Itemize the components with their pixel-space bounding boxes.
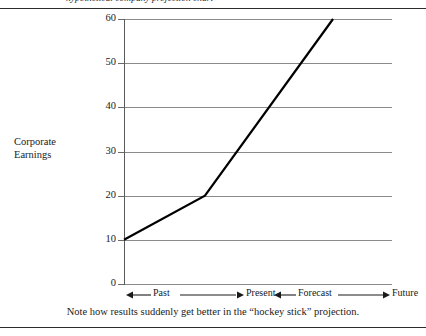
y-tick-label-10: 10 [76, 234, 116, 245]
gridline-0 [124, 284, 392, 285]
arrow-right-present-icon [237, 292, 244, 299]
y-tick-50 [118, 63, 124, 64]
gridline-50 [124, 63, 392, 64]
gridline-10 [124, 240, 392, 241]
x-axis-annotation-band: Past Present Forecast Future [124, 288, 392, 302]
y-tick-20 [118, 196, 124, 197]
x-segment-label-past: Past [153, 287, 170, 298]
x-segment-label-present: Present [246, 287, 275, 298]
x-segment-label-forecast: Forecast [298, 287, 332, 298]
gridline-60 [124, 19, 392, 20]
y-tick-60 [118, 19, 124, 20]
gridline-20 [124, 196, 392, 197]
y-tick-label-20: 20 [76, 190, 116, 201]
y-tick-label-60: 60 [76, 13, 116, 24]
y-tick-40 [118, 107, 124, 108]
y-tick-0 [118, 284, 124, 285]
y-axis-spine [124, 19, 125, 285]
gridline-40 [124, 107, 392, 108]
x-segment-label-future: Future [392, 287, 418, 298]
plot-area [124, 19, 392, 284]
y-tick-label-0: 0 [76, 278, 116, 289]
y-tick-label-50: 50 [76, 57, 116, 68]
bottom-divider-rule [0, 327, 426, 328]
figure-page: hypothetical company projection chart Co… [0, 0, 426, 336]
y-tick-label-30: 30 [76, 146, 116, 157]
arrow-left-past-icon [126, 292, 133, 299]
figure-caption: Note how results suddenly get better in … [0, 306, 426, 317]
y-tick-30 [118, 152, 124, 153]
y-tick-10 [118, 240, 124, 241]
gridline-30 [124, 152, 392, 153]
y-tick-labels: 60 50 40 30 20 10 0 [72, 0, 116, 336]
arrow-right-future-icon [383, 292, 390, 299]
y-tick-label-40: 40 [76, 101, 116, 112]
line-chart: Corporate Earnings 60 50 40 30 [0, 0, 426, 336]
